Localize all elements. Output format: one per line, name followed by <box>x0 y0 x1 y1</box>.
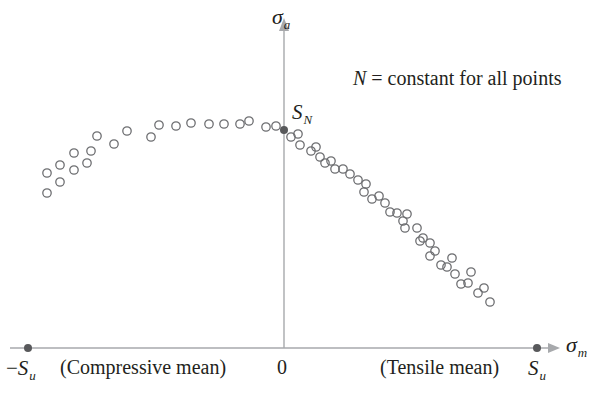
data-point <box>381 199 389 207</box>
data-point <box>272 122 280 130</box>
data-point <box>296 141 304 149</box>
data-point <box>70 149 78 157</box>
data-point <box>346 170 354 178</box>
scatter-chart <box>0 0 612 404</box>
data-point <box>236 120 244 128</box>
compressive-mean-label: (Compressive mean) <box>60 356 226 379</box>
su-subscript: u <box>540 368 547 383</box>
data-point <box>220 120 228 128</box>
su-label: Su <box>528 356 545 381</box>
data-point <box>403 210 411 218</box>
neg-su-symbol: S <box>18 356 29 380</box>
data-point <box>147 133 155 141</box>
tensile-mean-label: (Tensile mean) <box>380 356 499 379</box>
x-axis-subscript: m <box>578 345 587 360</box>
annotation-variable: N <box>353 67 366 89</box>
data-point <box>451 270 459 278</box>
data-point <box>87 147 95 155</box>
data-point <box>93 132 101 140</box>
sn-subscript: N <box>304 112 313 127</box>
data-point <box>426 239 434 247</box>
data-point <box>70 166 78 174</box>
data-point <box>486 298 494 306</box>
data-point <box>155 121 163 129</box>
data-point <box>467 268 475 276</box>
x-axis-label: σm <box>566 332 586 358</box>
data-point <box>360 188 368 196</box>
data-point <box>110 140 118 148</box>
x-axis-symbol: σ <box>566 332 577 357</box>
data-point <box>83 159 91 167</box>
annotation-text: = constant for all points <box>366 67 561 89</box>
y-axis-symbol: σ <box>272 4 283 29</box>
neg-su-label: −Su <box>6 356 35 381</box>
origin-label: 0 <box>277 356 287 379</box>
data-point <box>354 176 362 184</box>
data-point <box>43 189 51 197</box>
data-point <box>448 254 456 262</box>
su-point <box>533 344 541 352</box>
data-point <box>56 178 64 186</box>
data-point <box>480 284 488 292</box>
sn-label: SN <box>292 100 311 125</box>
su-symbol: S <box>528 356 539 380</box>
sn-point <box>280 126 288 134</box>
data-point <box>331 165 339 173</box>
y-axis-subscript: a <box>284 17 291 32</box>
neg-su-point <box>24 344 32 352</box>
data-point <box>43 169 51 177</box>
data-point <box>262 123 270 131</box>
x-axis-arrow-icon <box>548 343 560 353</box>
data-point <box>187 119 195 127</box>
data-point <box>123 127 131 135</box>
data-point <box>375 192 383 200</box>
data-point <box>205 120 213 128</box>
special-points <box>24 126 541 352</box>
data-point <box>426 252 434 260</box>
data-point <box>413 224 421 232</box>
annotation: N = constant for all points <box>353 67 561 90</box>
neg-su-subscript: u <box>29 368 36 383</box>
sn-symbol: S <box>292 100 303 124</box>
data-point <box>172 122 180 130</box>
data-point <box>56 161 64 169</box>
data-point <box>362 180 370 188</box>
y-axis-label: σa <box>272 4 289 30</box>
data-point <box>431 247 439 255</box>
data-points <box>43 117 494 306</box>
data-point <box>294 130 302 138</box>
minus-sign: − <box>6 356 18 380</box>
data-point <box>245 117 253 125</box>
